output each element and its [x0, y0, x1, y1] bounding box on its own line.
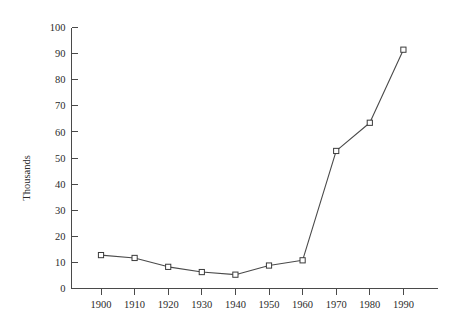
x-axis-tick-label: 1990	[393, 299, 414, 310]
y-axis-tick-label: 90	[55, 48, 66, 59]
x-axis-tick-label: 1910	[124, 299, 145, 310]
y-axis-tick-label: 0	[60, 283, 65, 294]
data-point-marker	[266, 263, 271, 268]
data-markers	[98, 47, 406, 277]
y-axis: 0102030405060708090100	[50, 22, 78, 294]
x-axis-tick-label: 1920	[158, 299, 179, 310]
data-point-marker	[166, 264, 171, 269]
y-axis-tick-label: 60	[55, 127, 66, 138]
y-axis-tick-label: 20	[55, 231, 66, 242]
y-axis-tick-label: 10	[55, 257, 66, 268]
data-series	[101, 50, 403, 275]
data-point-marker	[367, 120, 372, 125]
x-axis-tick-label: 1960	[292, 299, 313, 310]
data-point-marker	[300, 258, 305, 263]
y-axis-tick-label: 40	[55, 179, 66, 190]
y-axis-title: Thousands	[21, 155, 32, 201]
x-axis-tick-label: 1950	[259, 299, 280, 310]
line-chart: 0102030405060708090100 19001910192019301…	[0, 0, 459, 329]
x-axis-tick-label: 1980	[359, 299, 380, 310]
data-point-marker	[401, 47, 406, 52]
x-axis: 1900191019201930194019501960197019801990	[72, 289, 438, 310]
data-point-marker	[199, 269, 204, 274]
data-point-marker	[98, 252, 103, 257]
series-line-thousands	[101, 50, 403, 275]
y-axis-tick-label: 80	[55, 74, 66, 85]
x-axis-tick-label: 1970	[326, 299, 347, 310]
data-point-marker	[233, 272, 238, 277]
data-point-marker	[334, 148, 339, 153]
x-axis-tick-label: 1940	[225, 299, 246, 310]
y-axis-tick-label: 50	[55, 153, 66, 164]
data-point-marker	[132, 255, 137, 260]
x-axis-tick-label: 1900	[91, 299, 112, 310]
y-axis-tick-label: 70	[55, 100, 66, 111]
y-axis-tick-label: 30	[55, 205, 66, 216]
chart-canvas: 0102030405060708090100 19001910192019301…	[0, 0, 459, 329]
y-axis-tick-label: 100	[50, 22, 66, 33]
x-axis-tick-label: 1930	[191, 299, 212, 310]
